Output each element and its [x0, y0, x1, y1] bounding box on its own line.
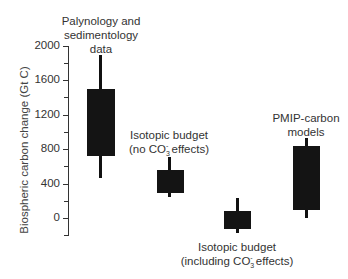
y-tick-label: 1200	[20, 108, 60, 120]
label-line: models	[272, 125, 339, 139]
y-minor-tick	[64, 235, 69, 236]
box-isotopic-incl-co3	[224, 211, 251, 229]
label-line: Isotopic budget	[129, 128, 209, 142]
box-isotopic-no-co3	[157, 170, 184, 193]
y-tick-label: 0	[20, 211, 60, 223]
y-tick-400	[63, 184, 69, 185]
y-tick-800	[63, 149, 69, 150]
label-text: effects)	[253, 255, 294, 267]
label-text: (no CO	[129, 143, 166, 155]
category-label-isotopic-no-co3: Isotopic budget (no CO3- effects)	[129, 128, 209, 156]
y-tick-label: 400	[20, 177, 60, 189]
category-label-pmip: PMIP-carbon models	[272, 111, 339, 139]
y-tick-label: 800	[20, 142, 60, 154]
y-axis-line	[68, 46, 69, 236]
label-line: Palynology and	[62, 14, 141, 28]
y-tick-1600	[63, 80, 69, 81]
y-tick-0	[63, 218, 69, 219]
y-tick-1200	[63, 115, 69, 116]
y-minor-tick	[64, 63, 69, 64]
y-tick-label: 1600	[20, 73, 60, 85]
label-line: (no CO3- effects)	[129, 142, 209, 156]
y-minor-tick	[64, 201, 69, 202]
label-line: data	[62, 42, 141, 56]
y-tick-label: 2000	[20, 39, 60, 51]
label-line: Isotopic budget	[181, 240, 294, 254]
label-text: (including CO	[181, 255, 251, 267]
box-palynology	[87, 89, 115, 156]
category-label-isotopic-incl-co3: Isotopic budget (including CO3- effects)	[181, 240, 294, 268]
label-line: PMIP-carbon	[272, 111, 339, 125]
y-minor-tick	[64, 97, 69, 98]
y-minor-tick	[64, 166, 69, 167]
category-label-palynology: Palynology and sedimentology data	[62, 14, 141, 56]
y-minor-tick	[64, 132, 69, 133]
label-text: effects)	[168, 143, 209, 155]
box-pmip	[293, 146, 320, 210]
label-line: (including CO3- effects)	[181, 254, 294, 268]
label-line: sedimentology	[62, 28, 141, 42]
